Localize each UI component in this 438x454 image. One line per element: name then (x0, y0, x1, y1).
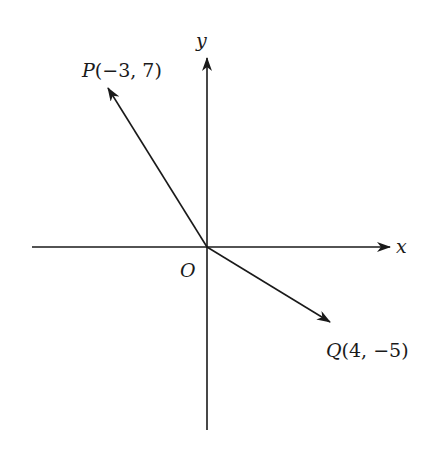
origin-label: O (180, 259, 196, 281)
point-p-name: P (81, 59, 96, 81)
point-q-label: Q(4, −5) (326, 339, 409, 361)
vector-p (108, 88, 207, 247)
y-axis-label: y (195, 29, 207, 51)
point-p-label: P(−3, 7) (81, 59, 162, 81)
x-axis-label: x (396, 235, 407, 257)
point-q-name: Q (326, 339, 342, 361)
point-q-coords: (4, −5) (342, 339, 409, 361)
coordinate-diagram: y x O P(−3, 7) Q(4, −5) (0, 0, 438, 454)
point-p-coords: (−3, 7) (95, 59, 162, 81)
vector-q (207, 247, 330, 322)
